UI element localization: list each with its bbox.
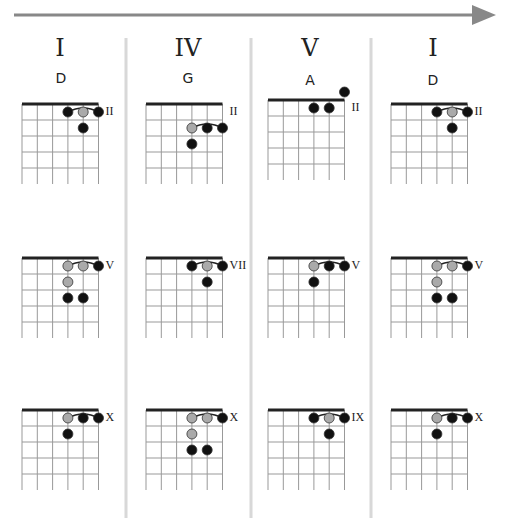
black-finger-dot: [324, 429, 334, 439]
black-finger-dot: [187, 445, 197, 455]
gray-finger-dot: [432, 277, 442, 287]
fret-position-label: II: [475, 104, 483, 119]
black-finger-dot: [94, 107, 104, 117]
black-finger-dot: [447, 293, 457, 303]
black-finger-dot: [202, 445, 212, 455]
roman-numeral-col-3: V: [280, 34, 340, 62]
gray-finger-dot: [202, 413, 212, 423]
gray-finger-dot: [78, 107, 88, 117]
gray-finger-dot: [187, 413, 197, 423]
gray-finger-dot: [202, 261, 212, 271]
black-finger-dot: [63, 293, 73, 303]
black-finger-dot: [63, 107, 73, 117]
black-finger-dot: [187, 261, 197, 271]
black-finger-dot: [78, 413, 88, 423]
roman-numeral-col-1: I: [30, 34, 90, 62]
black-finger-dot: [202, 277, 212, 287]
black-finger-dot: [309, 413, 319, 423]
chord-name-col-3: A: [290, 72, 330, 88]
chord-progression-diagram: I IV V I D G A D IIVXIIVIIXIIVIXIIVX: [0, 0, 511, 527]
right-arrow-icon: [472, 5, 496, 25]
black-finger-dot: [463, 107, 473, 117]
gray-finger-dot: [63, 261, 73, 271]
gray-finger-dot: [447, 261, 457, 271]
fret-position-label: X: [106, 410, 115, 425]
black-finger-dot: [463, 261, 473, 271]
fret-position-label: II: [230, 104, 238, 119]
gray-finger-dot: [78, 261, 88, 271]
gray-finger-dot: [63, 413, 73, 423]
fret-position-label: X: [475, 410, 484, 425]
chord-name-col-1: D: [41, 70, 81, 86]
black-finger-dot: [340, 87, 350, 97]
black-finger-dot: [432, 429, 442, 439]
gray-finger-dot: [432, 413, 442, 423]
fret-position-label: II: [106, 104, 114, 119]
black-finger-dot: [94, 261, 104, 271]
black-finger-dot: [432, 107, 442, 117]
black-finger-dot: [463, 413, 473, 423]
fret-position-label: X: [230, 410, 239, 425]
fret-position-label: IX: [352, 410, 365, 425]
black-finger-dot: [202, 123, 212, 133]
black-finger-dot: [218, 261, 228, 271]
gray-finger-dot: [187, 429, 197, 439]
chord-name-col-4: D: [413, 72, 453, 88]
fret-position-label: V: [475, 258, 484, 273]
fret-position-label: V: [106, 258, 115, 273]
roman-numeral-col-4: I: [403, 34, 463, 62]
black-finger-dot: [94, 413, 104, 423]
black-finger-dot: [324, 261, 334, 271]
roman-numeral-col-2: IV: [158, 34, 218, 62]
black-finger-dot: [447, 123, 457, 133]
gray-finger-dot: [63, 277, 73, 287]
black-finger-dot: [309, 103, 319, 113]
fret-position-label: II: [352, 100, 360, 115]
black-finger-dot: [447, 413, 457, 423]
black-finger-dot: [340, 413, 350, 423]
gray-finger-dot: [447, 107, 457, 117]
black-finger-dot: [340, 261, 350, 271]
black-finger-dot: [78, 123, 88, 133]
black-finger-dot: [187, 139, 197, 149]
black-finger-dot: [218, 123, 228, 133]
black-finger-dot: [78, 293, 88, 303]
gray-finger-dot: [187, 123, 197, 133]
black-finger-dot: [218, 413, 228, 423]
gray-finger-dot: [432, 261, 442, 271]
fret-position-label: V: [352, 258, 361, 273]
chord-name-col-2: G: [168, 70, 208, 86]
gray-finger-dot: [324, 413, 334, 423]
black-finger-dot: [432, 293, 442, 303]
black-finger-dot: [324, 103, 334, 113]
gray-finger-dot: [309, 261, 319, 271]
fret-position-label: VII: [230, 258, 247, 273]
black-finger-dot: [309, 277, 319, 287]
black-finger-dot: [63, 429, 73, 439]
